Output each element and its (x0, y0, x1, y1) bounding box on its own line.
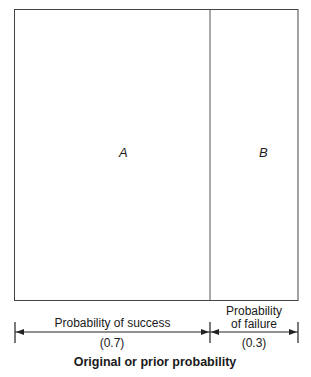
diagram-caption: Original or prior probability (40, 355, 270, 369)
arrowhead-mid-left-icon (201, 329, 209, 335)
arrowhead-left-icon (16, 329, 24, 335)
success-label: Probability of success (40, 317, 185, 330)
failure-value: (0.3) (224, 337, 284, 350)
outer-rectangle (15, 10, 299, 301)
region-b-label: B (259, 145, 268, 160)
success-value: (0.7) (82, 337, 142, 350)
region-a-label: A (119, 145, 128, 160)
failure-label-line2: of failure (212, 318, 296, 331)
